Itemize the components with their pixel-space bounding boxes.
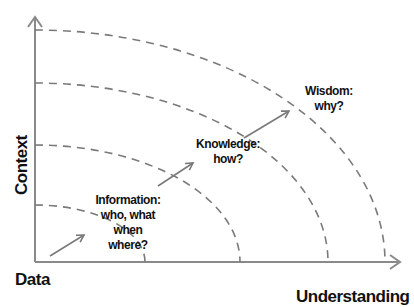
x-axis-label: Understanding	[296, 287, 409, 307]
arrow-knowledge-to-wisdom	[244, 111, 289, 138]
stage-knowledge-line: how?	[188, 152, 268, 167]
arrow-data-to-information	[50, 235, 84, 256]
stage-information-line: who, what	[86, 208, 170, 223]
stage-information-line: when	[86, 223, 170, 238]
stage-knowledge: Knowledge: how?	[188, 137, 268, 167]
arc-knowledge	[35, 83, 328, 262]
stage-information-line: where?	[86, 238, 170, 253]
stage-wisdom-title: Wisdom:	[300, 84, 358, 99]
stage-information-title: Information:	[86, 193, 170, 208]
x-axis	[35, 255, 400, 269]
stage-information: Information: who, what when where?	[86, 193, 170, 253]
stage-wisdom: Wisdom: why?	[300, 84, 358, 114]
stage-knowledge-title: Knowledge:	[188, 137, 268, 152]
y-axis-label: Context	[12, 135, 32, 195]
stage-wisdom-line: why?	[300, 99, 358, 114]
x-origin-label: Data	[15, 270, 50, 290]
